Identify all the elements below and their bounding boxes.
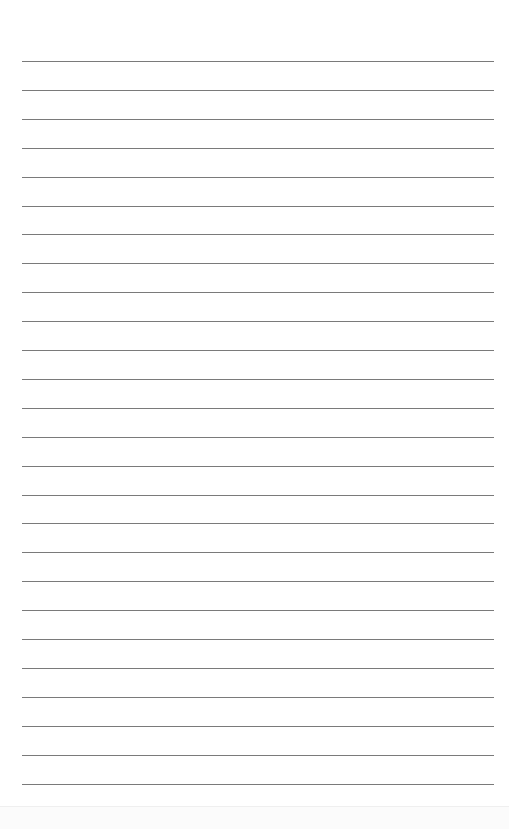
ruled-line (22, 755, 494, 756)
ruled-line (22, 61, 494, 62)
ruled-line (22, 466, 494, 467)
ruled-line (22, 90, 494, 91)
ruled-line (22, 437, 494, 438)
ruled-line (22, 263, 494, 264)
ruled-line (22, 206, 494, 207)
ruled-line (22, 119, 494, 120)
ruled-line (22, 379, 494, 380)
ruled-line (22, 697, 494, 698)
ruled-line (22, 350, 494, 351)
lined-paper-page (0, 0, 509, 806)
ruled-line (22, 148, 494, 149)
ruled-line (22, 668, 494, 669)
ruled-line (22, 784, 494, 785)
ruled-line (22, 523, 494, 524)
ruled-line (22, 177, 494, 178)
ruled-line (22, 234, 494, 235)
ruled-line (22, 495, 494, 496)
ruled-line (22, 581, 494, 582)
ruled-line (22, 321, 494, 322)
ruled-line (22, 726, 494, 727)
ruled-line (22, 639, 494, 640)
ruled-line (22, 408, 494, 409)
ruled-line (22, 292, 494, 293)
ruled-line (22, 552, 494, 553)
page-bottom-edge (0, 806, 509, 829)
ruled-line (22, 610, 494, 611)
